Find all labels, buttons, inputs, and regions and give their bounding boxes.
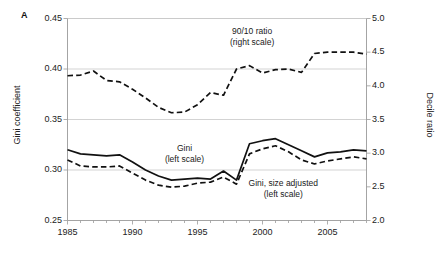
- panel-label: A: [21, 10, 28, 20]
- y-tick-right-5.0: 5.0: [372, 13, 400, 23]
- annotation-gini-line2: (left scale): [0, 154, 401, 165]
- x-tick-1990: 1990: [113, 227, 153, 237]
- y-tick-left-0.30: 0.30: [34, 164, 62, 174]
- y-tick-right-4.0: 4.0: [372, 80, 400, 90]
- annotation-gini: Gini (left scale): [0, 143, 401, 165]
- x-tick-2005: 2005: [308, 227, 348, 237]
- y-tick-left-0.25: 0.25: [34, 215, 62, 225]
- y-tick-right-3.5: 3.5: [372, 114, 400, 124]
- y-tick-left-0.45: 0.45: [34, 13, 62, 23]
- annotation-ratio-line2: (right scale): [36, 37, 439, 48]
- y-axis-right-title: Decile ratio: [425, 60, 435, 170]
- x-tick-1985: 1985: [48, 227, 88, 237]
- annotation-gini-adj-line2: (left scale): [67, 189, 439, 200]
- y-tick-left-0.35: 0.35: [34, 114, 62, 124]
- series-line-1: [68, 52, 367, 113]
- x-tick-2000: 2000: [243, 227, 283, 237]
- x-tick-1995: 1995: [178, 227, 218, 237]
- annotation-gini-line1: Gini: [0, 143, 401, 154]
- annotation-gini-size-adjusted: Gini, size adjusted (left scale): [67, 178, 439, 200]
- annotation-gini-adj-line1: Gini, size adjusted: [67, 178, 439, 189]
- annotation-ratio-line1: 90/10 ratio: [36, 26, 439, 37]
- y-tick-right-2.0: 2.0: [372, 215, 400, 225]
- y-tick-left-0.40: 0.40: [34, 63, 62, 73]
- annotation-ratio: 90/10 ratio (right scale): [36, 26, 439, 48]
